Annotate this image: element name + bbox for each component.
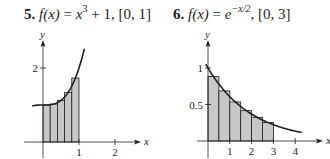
riemann-rectangle (230, 102, 241, 141)
y-axis-label: y (39, 28, 45, 40)
y-tick-label: 0.5 (189, 99, 203, 111)
x-axis-label: x (325, 134, 330, 146)
riemann-rectangle (72, 78, 79, 142)
x-tick-label: 1 (227, 145, 233, 157)
y-tick-label: 1 (198, 62, 204, 74)
riemann-rectangle (208, 77, 219, 141)
riemann-rectangle (219, 91, 230, 141)
riemann-rectangle (241, 111, 252, 141)
plots: xy122xy12340.51 (0, 0, 330, 159)
riemann-rectangle (65, 92, 72, 142)
x-tick-label: 2 (112, 146, 118, 158)
x-tick-label: 4 (292, 145, 298, 157)
y-axis-label: y (204, 28, 210, 40)
riemann-rectangle (57, 100, 64, 142)
riemann-rectangle (263, 123, 274, 141)
x-axis-label: x (143, 135, 149, 147)
x-tick-label: 2 (249, 145, 255, 157)
riemann-rectangle (50, 104, 57, 142)
x-tick-label: 3 (271, 145, 277, 157)
riemann-rectangle (43, 105, 50, 142)
riemann-rectangle (252, 117, 263, 141)
x-tick-label: 1 (76, 146, 82, 158)
y-tick-label: 2 (33, 62, 39, 74)
